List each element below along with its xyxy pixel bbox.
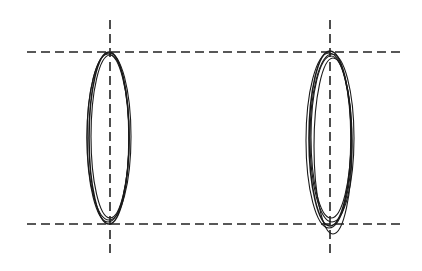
ellipse-loops xyxy=(87,51,354,234)
dashed-guide-lines xyxy=(27,20,405,256)
left-ellipse-group xyxy=(87,52,131,224)
hysteresis-loop-diagram xyxy=(0,0,422,271)
loop-curve xyxy=(87,53,131,220)
loop-curve xyxy=(306,53,352,228)
